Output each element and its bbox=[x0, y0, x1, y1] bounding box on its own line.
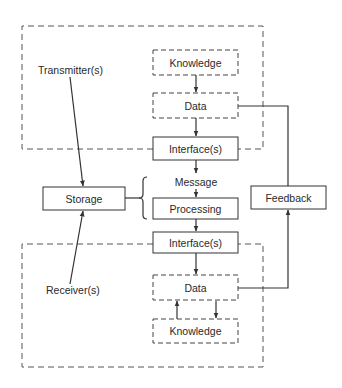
communication-diagram: Knowledge Data Interface(s) Message Proc… bbox=[0, 0, 342, 388]
receiver-knowledge-label: Knowledge bbox=[170, 325, 222, 337]
transmitter-interface-box: Interface(s) bbox=[153, 137, 238, 160]
transmitter-data-box: Data bbox=[153, 93, 238, 118]
transmitter-label: Transmitter(s) bbox=[38, 64, 103, 76]
message-label: Message bbox=[175, 176, 218, 188]
receiver-interface-box: Interface(s) bbox=[153, 232, 238, 253]
receiver-interface-label: Interface(s) bbox=[169, 237, 222, 249]
receiver-frame bbox=[22, 244, 263, 367]
receiver-data-label: Data bbox=[184, 282, 206, 294]
processing-label: Processing bbox=[170, 203, 222, 215]
transmitter-to-storage-line bbox=[70, 77, 83, 186]
transmitter-frame bbox=[22, 26, 263, 149]
message-processing-brace bbox=[139, 177, 147, 219]
processing-box: Processing bbox=[153, 198, 238, 219]
feedback-label: Feedback bbox=[265, 192, 312, 204]
receiver-label: Receiver(s) bbox=[46, 284, 100, 296]
transmitter-interface-label: Interface(s) bbox=[169, 143, 222, 155]
transmitter-knowledge-box: Knowledge bbox=[153, 50, 238, 75]
feedback-box: Feedback bbox=[251, 186, 326, 209]
transmitter-knowledge-label: Knowledge bbox=[170, 57, 222, 69]
storage-box: Storage bbox=[43, 187, 125, 210]
receiver-to-storage-line bbox=[70, 211, 83, 284]
receiver-data-box: Data bbox=[153, 275, 238, 300]
storage-label: Storage bbox=[66, 193, 103, 205]
transmitter-data-label: Data bbox=[184, 100, 206, 112]
receiver-knowledge-box: Knowledge bbox=[153, 319, 238, 343]
